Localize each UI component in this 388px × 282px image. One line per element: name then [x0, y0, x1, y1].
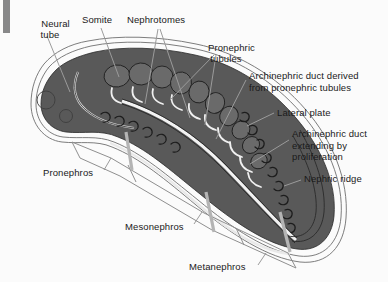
leader-metanephros	[258, 253, 266, 265]
label-metanephros: Metanephros	[189, 261, 246, 273]
label-neural-tube: Neural tube	[24, 6, 76, 52]
label-somite: Somite	[82, 14, 112, 26]
leader-pronephros	[104, 158, 111, 170]
label-lateral-plate: Lateral plate	[277, 107, 331, 119]
label-mesonephros: Mesonephros	[125, 221, 184, 233]
label-nephric-ridge: Nephric ridge	[304, 173, 362, 185]
figure-canvas: Neural tube Somite Nephrotomes Pronephri…	[0, 0, 388, 282]
label-nephrotomes: Nephrotomes	[127, 14, 185, 26]
somite-3	[151, 66, 173, 88]
label-archinephric-duct-extending: Archinephric duct extending by prolifera…	[292, 128, 367, 163]
label-pronephros: Pronephros	[43, 167, 93, 179]
label-archinephric-duct-derived: Archinephric duct derived from pronephri…	[249, 70, 359, 93]
